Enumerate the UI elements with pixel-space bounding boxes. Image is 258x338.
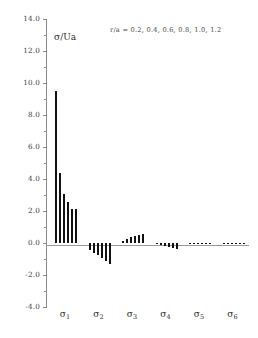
y-axis-tick-label: 10.0 (6, 78, 40, 87)
bar (205, 243, 207, 244)
bar (138, 235, 140, 243)
bar (156, 243, 158, 244)
y-axis-tick-label: 12.0 (6, 46, 40, 55)
y-axis-tick-label: 4.0 (6, 174, 40, 183)
bar (130, 237, 132, 243)
bar (75, 209, 77, 243)
y-axis-tick-label: 6.0 (6, 142, 40, 151)
bar (193, 243, 195, 244)
y-axis-tick-label: -2.0 (6, 270, 40, 279)
x-axis-label-subscript: 2 (100, 313, 104, 321)
bar (67, 202, 69, 243)
y-axis-label: σ/Ua (54, 32, 76, 42)
bar (201, 243, 203, 244)
y-axis-tick-label-wrap: 8.0 (0, 110, 40, 120)
x-axis-label: σ1 (60, 309, 70, 319)
bar (105, 243, 107, 261)
y-axis-tick (43, 307, 47, 308)
bar (197, 243, 199, 244)
bar (55, 91, 57, 243)
bar (235, 243, 237, 244)
legend-annotation: r/a = 0.2, 0.4, 0.6, 0.8, 1.0, 1.2 (110, 26, 221, 34)
bar (89, 243, 91, 250)
bar (176, 243, 178, 249)
bar (243, 243, 245, 244)
y-axis-tick-label-wrap: 0.0 (0, 238, 40, 248)
x-axis-label-subscript: 1 (66, 313, 70, 321)
x-axis-label: σ4 (160, 309, 170, 319)
bar (109, 243, 111, 264)
x-axis-label-subscript: 4 (167, 313, 171, 321)
y-axis-tick-label-wrap: 4.0 (0, 174, 40, 184)
x-axis-label: σ3 (127, 309, 137, 319)
bar (134, 236, 136, 243)
bar (164, 243, 166, 246)
y-axis-tick-label: -4.0 (6, 302, 40, 311)
bar (172, 243, 174, 248)
y-axis-tick-label: 8.0 (6, 110, 40, 119)
bar (227, 243, 229, 244)
bar (126, 239, 128, 243)
bar (189, 243, 191, 244)
x-axis-label-subscript: 6 (234, 313, 238, 321)
x-axis-label-subscript: 3 (133, 313, 137, 321)
y-axis-tick-label: 0.0 (6, 238, 40, 247)
y-axis-tick-label-wrap: 12.0 (0, 46, 40, 56)
y-axis-tick-label-wrap: 10.0 (0, 78, 40, 88)
y-axis-tick-label-wrap: 2.0 (0, 206, 40, 216)
bar (160, 243, 162, 245)
bar (142, 234, 144, 243)
bar (168, 243, 170, 247)
y-axis-tick-label-wrap: -2.0 (0, 270, 40, 280)
bar (93, 243, 95, 253)
bar (223, 243, 225, 244)
bar (101, 243, 103, 258)
y-axis-tick-label-wrap: 6.0 (0, 142, 40, 152)
x-axis-label: σ2 (93, 309, 103, 319)
bar (97, 243, 99, 255)
chart-figure: 14.012.010.08.06.04.02.00.0-2.0-4.0 σ1σ2… (0, 0, 258, 338)
bar (122, 241, 124, 243)
bar (59, 173, 61, 243)
y-axis-tick-label-wrap: -4.0 (0, 302, 40, 312)
bar (71, 209, 73, 243)
x-axis-label: σ6 (227, 309, 237, 319)
bar (231, 243, 233, 244)
bar (239, 243, 241, 244)
y-axis-tick-label: 14.0 (6, 14, 40, 23)
y-axis-tick-label: 2.0 (6, 206, 40, 215)
plot-area (46, 19, 249, 307)
bar (63, 194, 65, 243)
x-axis-label: σ5 (194, 309, 204, 319)
x-axis-label-subscript: 5 (200, 313, 204, 321)
y-axis-tick-label-wrap: 14.0 (0, 14, 40, 24)
bar (209, 243, 211, 244)
